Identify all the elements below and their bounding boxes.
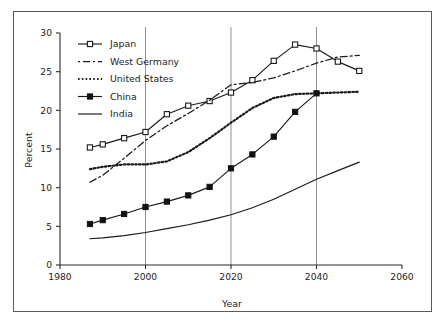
data-point-marker <box>164 112 169 117</box>
series-path <box>90 92 359 169</box>
data-point-marker <box>293 109 298 114</box>
data-point-marker <box>357 68 362 73</box>
x-tick-label: 2020 <box>219 271 243 282</box>
legend-label: United States <box>110 73 174 84</box>
legend-item-japan: Japan <box>78 38 136 49</box>
series-united-states <box>90 92 359 169</box>
y-tick-label: 25 <box>40 66 52 77</box>
legend-item-united-states: United States <box>78 73 174 84</box>
data-point-marker <box>228 90 233 95</box>
x-tick-label: 1980 <box>48 271 72 282</box>
x-tick-label: 2040 <box>305 271 329 282</box>
data-point-marker <box>122 136 127 141</box>
data-point-marker <box>335 59 340 64</box>
data-point-marker <box>314 91 319 96</box>
figure-container: 19802000202020402060051015202530 JapanWe… <box>0 0 445 332</box>
y-tick-label: 0 <box>46 259 52 270</box>
legend-swatch-open-square-icon <box>87 41 92 46</box>
data-point-marker <box>186 103 191 108</box>
x-tick-label: 2060 <box>390 271 414 282</box>
data-point-marker <box>271 58 276 63</box>
y-tick-label: 5 <box>46 221 52 232</box>
legend-label: India <box>110 108 133 119</box>
data-point-marker <box>207 184 212 189</box>
data-point-marker <box>143 204 148 209</box>
data-point-marker <box>122 211 127 216</box>
legend-item-china: China <box>78 91 137 102</box>
data-point-marker <box>250 152 255 157</box>
legend-swatch-filled-square-icon <box>87 94 92 99</box>
legend-item-west-germany: West Germany <box>78 56 180 67</box>
data-point-marker <box>271 134 276 139</box>
y-tick-label: 30 <box>40 27 52 38</box>
y-tick-label: 10 <box>40 182 52 193</box>
data-series <box>87 42 362 239</box>
legend-label: West Germany <box>110 56 180 67</box>
data-point-marker <box>164 199 169 204</box>
x-tick-label: 2000 <box>134 271 158 282</box>
data-point-marker <box>143 129 148 134</box>
data-point-marker <box>100 142 105 147</box>
data-point-marker <box>186 193 191 198</box>
chart-legend: JapanWest GermanyUnited StatesChinaIndia <box>78 38 180 119</box>
y-axis-title: Percent <box>23 132 34 168</box>
data-point-marker <box>314 46 319 51</box>
y-tick-label: 15 <box>40 143 52 154</box>
legend-item-india: India <box>78 108 133 119</box>
data-point-marker <box>293 42 298 47</box>
data-point-marker <box>87 221 92 226</box>
line-chart: 19802000202020402060051015202530 JapanWe… <box>0 0 445 332</box>
data-point-marker <box>228 166 233 171</box>
legend-label: Japan <box>109 38 136 49</box>
data-point-marker <box>87 145 92 150</box>
x-axis-title: Year <box>221 298 242 309</box>
data-point-marker <box>100 218 105 223</box>
axes <box>56 33 402 269</box>
tick-labels: 19802000202020402060051015202530 <box>40 27 414 282</box>
y-tick-label: 20 <box>40 105 52 116</box>
legend-label: China <box>110 91 137 102</box>
